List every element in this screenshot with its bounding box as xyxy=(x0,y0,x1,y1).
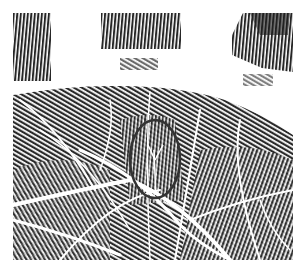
finger-region-left xyxy=(13,13,51,81)
palm-print-image xyxy=(0,0,305,271)
finger-region-right xyxy=(232,13,293,86)
finger-region-middle xyxy=(101,13,181,70)
